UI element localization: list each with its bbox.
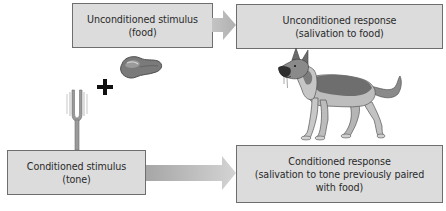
unconditioned-stimulus-example: (food) [128,26,156,39]
conditioned-stimulus-box: Conditioned stimulus (tone) [7,150,146,195]
conditioned-response-example-line2: with food) [316,181,363,194]
conditioned-response-box: Conditioned response (salivation to tone… [236,145,443,203]
arrow-right-icon [212,10,236,40]
conditioned-response-label: Conditioned response [288,155,390,168]
conditioned-stimulus-label: Conditioned stimulus [27,160,126,173]
arrow-right-icon [146,156,236,190]
tuning-fork-icon [64,88,90,150]
plus-icon [95,77,115,97]
unconditioned-response-box: Unconditioned response (salivation to fo… [236,4,443,49]
unconditioned-stimulus-label: Unconditioned stimulus [87,13,198,26]
conditioned-stimulus-example: (tone) [62,173,91,186]
meat-steak-icon [118,54,164,80]
salivating-dog-icon [278,48,408,144]
unconditioned-response-example: (salivation to food) [295,27,384,40]
unconditioned-stimulus-box: Unconditioned stimulus (food) [72,3,213,48]
conditioned-response-example-line1: (salivation to tone previously paired [255,168,424,181]
unconditioned-response-label: Unconditioned response [283,14,397,27]
